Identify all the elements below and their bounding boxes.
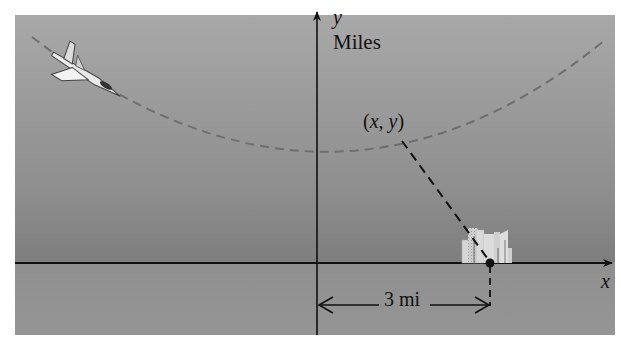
point-label-close: )	[397, 110, 404, 132]
distance-label: 3 mi	[380, 288, 424, 311]
point-label-x: x	[370, 110, 379, 132]
jet-plane-icon	[43, 37, 131, 112]
diagram-graphics	[0, 0, 621, 347]
point-label: (x, y)	[363, 110, 404, 133]
line-of-sight	[402, 141, 490, 262]
y-axis-label: y	[333, 6, 342, 29]
city-buildings-icon	[462, 228, 512, 263]
point-label-sep: ,	[379, 110, 389, 132]
units-label: Miles	[333, 30, 381, 55]
x-axis-label: x	[601, 270, 610, 293]
point-label-open: (	[363, 110, 370, 132]
